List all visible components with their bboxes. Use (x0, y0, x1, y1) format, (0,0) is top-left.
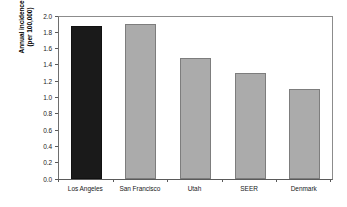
y-axis-tick: 1.8 (43, 27, 58, 37)
bar-los-angeles[interactable] (71, 26, 102, 179)
y-axis-tick: 1.2 (43, 76, 58, 86)
y-axis-tick-label: 0.0 (43, 176, 55, 183)
bar-slot (168, 16, 223, 179)
y-axis-tick: 1.0 (43, 93, 58, 103)
x-axis-ticks (58, 179, 333, 183)
x-axis-labels: Los AngelesSan FranciscoUtahSEERDenmark (58, 185, 333, 199)
x-axis-label-denmark: Denmark (276, 185, 331, 192)
y-axis-tick-label: 0.6 (43, 127, 55, 134)
y-axis-tick-label: 0.4 (43, 143, 55, 150)
bar-san-francisco[interactable] (125, 24, 156, 179)
y-axis-tick: 0.4 (43, 141, 58, 151)
y-axis-tick-label: 1.0 (43, 94, 55, 101)
bar-slot (59, 16, 114, 179)
x-axis-tick-mark (330, 179, 331, 182)
bar-chart: Annual incidence (per 100,000) 2.01.81.6… (0, 0, 347, 207)
y-axis-tick-label: 0.8 (43, 110, 55, 117)
y-axis-tick-label: 0.2 (43, 159, 55, 166)
bar-seer[interactable] (235, 73, 266, 179)
y-axis-tick: 0.0 (43, 174, 58, 184)
x-axis-label-los-angeles: Los Angeles (58, 185, 113, 192)
bar-slot (114, 16, 169, 179)
bars-layer (59, 16, 332, 179)
y-axis-tick-label: 1.8 (43, 29, 55, 36)
y-axis-tick: 0.6 (43, 125, 58, 135)
x-axis-tick-mark (167, 179, 168, 182)
y-axis-tick: 0.8 (43, 109, 58, 119)
bar-denmark[interactable] (289, 89, 320, 179)
bar-slot (223, 16, 278, 179)
y-axis-tick-label: 1.2 (43, 78, 55, 85)
y-axis: 2.01.81.61.41.21.00.80.60.40.20.0 (0, 0, 58, 197)
y-axis-tick-label: 1.4 (43, 61, 55, 68)
y-axis-tick: 0.2 (43, 158, 58, 168)
bar-utah[interactable] (180, 58, 211, 179)
x-axis-tick-mark (222, 179, 223, 182)
x-axis-label-san-francisco: San Francisco (113, 185, 168, 192)
x-axis-tick-mark (276, 179, 277, 182)
x-axis-tick-mark (58, 179, 59, 182)
x-axis-label-utah: Utah (167, 185, 222, 192)
bar-slot (277, 16, 332, 179)
y-axis-tick-label: 2.0 (43, 13, 55, 20)
y-axis-tick: 2.0 (43, 11, 58, 21)
y-axis-tick: 1.4 (43, 60, 58, 70)
x-axis-tick-mark (113, 179, 114, 182)
y-axis-tick-label: 1.6 (43, 45, 55, 52)
x-axis-label-seer: SEER (222, 185, 277, 192)
y-axis-tick: 1.6 (43, 44, 58, 54)
